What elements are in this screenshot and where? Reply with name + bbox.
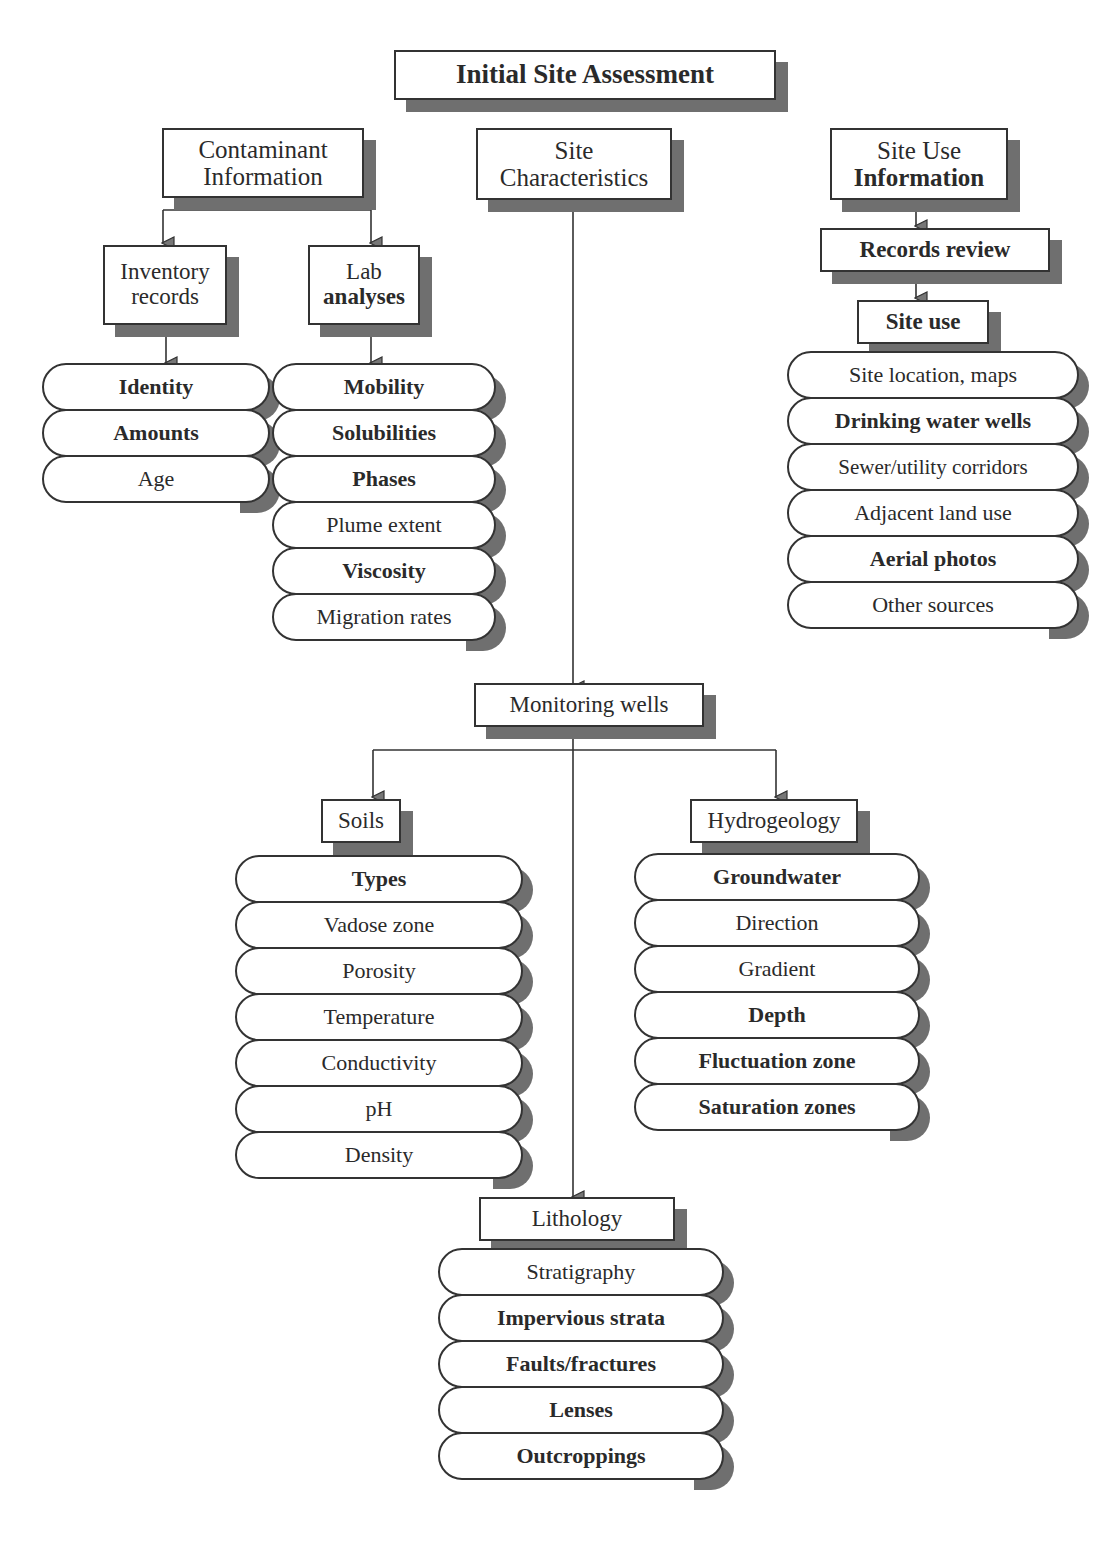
list-item: Depth <box>634 991 920 1039</box>
list-item: Lenses <box>438 1386 724 1434</box>
inventory-line1: Inventory <box>120 260 209 285</box>
list-item: Temperature <box>235 993 523 1041</box>
monitoring-wells-label: Monitoring wells <box>509 693 668 718</box>
list-item: Impervious strata <box>438 1294 724 1342</box>
list-item: Conductivity <box>235 1039 523 1087</box>
lab-line1: Lab <box>323 260 405 285</box>
lithology-label: Lithology <box>532 1207 623 1232</box>
list-item: Sewer/utility corridors <box>787 443 1079 491</box>
list-item: Adjacent land use <box>787 489 1079 537</box>
lab-analyses-box: Lab analyses <box>308 245 420 325</box>
site-use-box: Site use <box>857 300 989 344</box>
lithology-box: Lithology <box>479 1197 675 1241</box>
contaminant-information-box: Contaminant Information <box>162 128 364 198</box>
list-item: Identity <box>42 363 270 411</box>
list-item: Phases <box>272 455 496 503</box>
list-item: Density <box>235 1131 523 1179</box>
list-item: Saturation zones <box>634 1083 920 1131</box>
title-box: Initial Site Assessment <box>394 50 776 100</box>
list-item: Solubilities <box>272 409 496 457</box>
list-item: Migration rates <box>272 593 496 641</box>
list-item: Drinking water wells <box>787 397 1079 445</box>
records-review-label: Records review <box>860 238 1011 263</box>
soils-box: Soils <box>321 799 401 843</box>
site-characteristics-box: Site Characteristics <box>476 128 672 200</box>
list-item: Types <box>235 855 523 903</box>
list-item: Age <box>42 455 270 503</box>
list-item: Stratigraphy <box>438 1248 724 1296</box>
site-use-label: Site use <box>886 310 961 335</box>
lab-items-stack: Mobility Solubilities Phases Plume exten… <box>272 365 496 641</box>
site-characteristics-line1: Site <box>500 137 649 164</box>
list-item: Outcroppings <box>438 1432 724 1480</box>
hydrogeology-label: Hydrogeology <box>708 809 841 834</box>
list-item: Direction <box>634 899 920 947</box>
lithology-items-stack: Stratigraphy Impervious strata Faults/fr… <box>438 1250 724 1480</box>
soils-label: Soils <box>338 809 384 834</box>
site-characteristics-line2: Characteristics <box>500 164 649 191</box>
inventory-records-box: Inventory records <box>103 245 227 325</box>
contaminant-label-line2: Information <box>198 163 327 190</box>
inventory-line2: records <box>120 285 209 310</box>
list-item: Faults/fractures <box>438 1340 724 1388</box>
hydrogeology-items-stack: Groundwater Direction Gradient Depth Flu… <box>634 855 920 1131</box>
hydrogeology-box: Hydrogeology <box>690 799 858 843</box>
list-item: Mobility <box>272 363 496 411</box>
list-item: Viscosity <box>272 547 496 595</box>
contaminant-label-line1: Contaminant <box>198 136 327 163</box>
list-item: Gradient <box>634 945 920 993</box>
inventory-items-stack: Identity Amounts Age <box>42 365 270 503</box>
list-item: Amounts <box>42 409 270 457</box>
lab-line2: analyses <box>323 285 405 310</box>
title-label: Initial Site Assessment <box>456 60 714 89</box>
list-item: Plume extent <box>272 501 496 549</box>
list-item: Site location, maps <box>787 351 1079 399</box>
site-use-information-box: Site Use Information <box>830 128 1008 200</box>
site-use-info-line1: Site Use <box>854 137 985 164</box>
soils-items-stack: Types Vadose zone Porosity Temperature C… <box>235 857 523 1179</box>
list-item: Other sources <box>787 581 1079 629</box>
monitoring-wells-box: Monitoring wells <box>474 683 704 727</box>
records-review-box: Records review <box>820 228 1050 272</box>
site-use-items-stack: Site location, maps Drinking water wells… <box>787 353 1079 629</box>
list-item: Groundwater <box>634 853 920 901</box>
list-item: pH <box>235 1085 523 1133</box>
list-item: Fluctuation zone <box>634 1037 920 1085</box>
list-item: Vadose zone <box>235 901 523 949</box>
site-use-info-line2: Information <box>854 164 985 191</box>
list-item: Aerial photos <box>787 535 1079 583</box>
list-item: Porosity <box>235 947 523 995</box>
